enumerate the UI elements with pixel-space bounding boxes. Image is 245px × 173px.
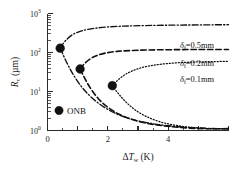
- series-annotations: δf=0.5mm δf=0.2mm δf=0.1mm: [180, 41, 215, 85]
- x-axis-tick-labels: 0 2 4: [45, 134, 171, 144]
- x-tick-label-4: 4: [166, 134, 171, 144]
- chart-figure: 100 101 102 103 0 2 4 ΔTw (K) Rc (µm): [0, 0, 245, 173]
- onb-legend-marker-icon: [55, 106, 63, 114]
- onb-legend-label: ONB: [67, 106, 86, 116]
- onb-data-point: [108, 81, 117, 90]
- chart-plot-area: 100 101 102 103 0 2 4 ΔTw (K) Rc (µm): [0, 0, 245, 173]
- series-label-delta-02mm: δf=0.2mm: [180, 59, 215, 69]
- y-axis-title: Rc (µm): [10, 57, 21, 88]
- y-tick-label-2: 102: [30, 47, 41, 58]
- curve-delta-01mm-lower: [112, 86, 228, 129]
- onb-legend: ONB: [55, 106, 86, 116]
- x-tick-label-0: 0: [45, 134, 49, 144]
- onb-data-point: [76, 65, 85, 74]
- y-tick-label-3: 103: [30, 8, 41, 19]
- y-axis-major-ticks: [48, 14, 53, 131]
- y-tick-label-0: 100: [30, 125, 41, 136]
- x-tick-label-2: 2: [106, 134, 110, 144]
- onb-data-points: [56, 44, 117, 90]
- y-tick-label-1: 101: [30, 86, 41, 97]
- series-label-delta-05mm: δf=0.5mm: [180, 41, 215, 51]
- onb-data-point: [56, 44, 65, 53]
- y-axis-tick-labels: 100 101 102 103: [30, 8, 41, 136]
- x-axis-title: ΔTw (K): [122, 152, 153, 163]
- series-label-delta-01mm: δf=0.1mm: [180, 75, 215, 85]
